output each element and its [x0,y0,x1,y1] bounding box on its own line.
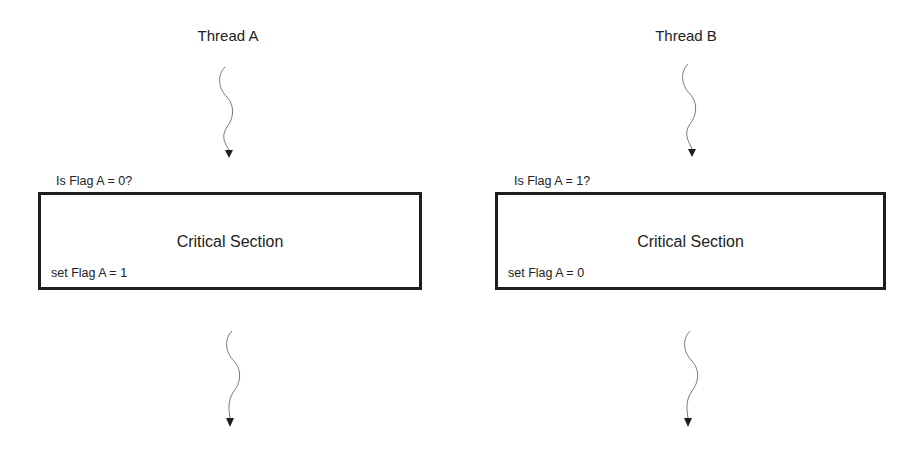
thread-a-outgoing-arrowhead-icon [226,418,234,427]
thread-a-incoming-wavy-arrow-icon [220,67,233,150]
thread-b-outgoing-arrowhead-icon [684,418,692,427]
thread-b-incoming-arrowhead-icon [688,149,696,157]
thread-b-outgoing-wavy-arrow-icon [685,331,698,418]
thread-a-outgoing-wavy-arrow-icon [227,331,240,418]
thread-a-incoming-arrowhead-icon [225,150,233,158]
thread-b-incoming-wavy-arrow-icon [683,64,696,149]
thread-flow-arrows [0,0,923,464]
